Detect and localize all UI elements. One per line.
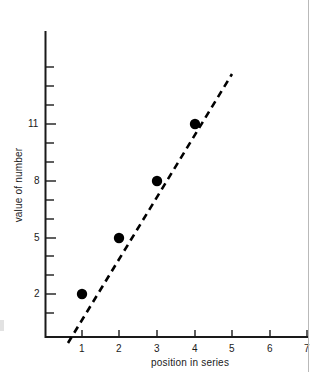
y-tick-label: 8 [34,176,40,186]
y-tick-marks [46,67,56,313]
x-tick-marks [82,330,307,337]
x-tick-label: 1 [79,344,85,354]
x-tick-label: 5 [229,344,235,354]
data-point [114,233,124,243]
page-edge-line [308,0,309,372]
x-tick-label: 6 [267,344,273,354]
page-edge-smudge [0,320,4,331]
y-tick-label: 11 [28,119,38,129]
x-axis-title: position in series [151,357,229,368]
x-tick-label: 3 [154,344,160,354]
data-point [190,119,200,129]
chart-figure: value of number 11 8 5 2 1 2 3 4 5 6 7 p… [0,0,323,372]
trend-line [68,74,232,343]
data-point [152,176,162,186]
data-point [77,289,87,299]
y-tick-label: 2 [34,289,40,299]
data-points [77,119,200,299]
y-tick-label: 5 [34,233,40,243]
plot-area: value of number [0,0,323,372]
x-tick-label: 2 [116,344,122,354]
y-axis-title: value of number [13,147,24,222]
x-tick-label: 4 [192,344,198,354]
